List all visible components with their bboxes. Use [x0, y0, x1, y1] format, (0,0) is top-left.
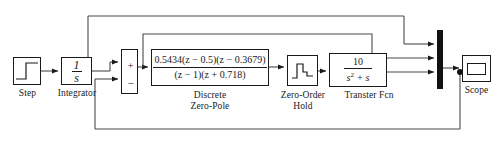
step-block[interactable]	[13, 57, 41, 85]
discrete-zero-pole-expression: 0.5434(z − 0.5)(z − 0.3679) (z − 1)(z + …	[153, 53, 268, 82]
sum-minus-sign: −	[122, 79, 139, 88]
transfer-fcn-block-label: Transter Fcn	[336, 90, 402, 101]
integrator-numerator: 1	[72, 59, 82, 71]
integrator-transfer-expression: 1 s	[72, 59, 82, 84]
zero-order-hold-block-label: Zero-Order Hold	[266, 90, 340, 112]
scope-block-label: Scope	[455, 85, 498, 96]
scope-screen-icon	[467, 63, 486, 75]
integrator-block[interactable]: 1 s	[61, 57, 92, 85]
mux-block[interactable]	[437, 30, 443, 89]
transfer-fcn-denominator: s2 + s	[344, 68, 371, 84]
block-diagram-canvas: Step 1 s Integrator + − 0.5434(z − 0.5)(…	[0, 0, 501, 145]
discrete-zero-pole-denominator: (z − 1)(z + 0.718)	[153, 67, 268, 82]
integrator-block-label: Integrator	[48, 88, 106, 99]
discrete-zero-pole-block[interactable]: 0.5434(z − 0.5)(z − 0.3679) (z − 1)(z + …	[151, 49, 269, 86]
sum-block[interactable]: + −	[121, 49, 138, 94]
step-signal-icon	[14, 58, 40, 84]
step-block-label: Step	[0, 88, 55, 99]
staircase-hold-icon	[290, 59, 315, 83]
zero-order-hold-block[interactable]	[287, 55, 318, 86]
transfer-fcn-numerator: 10	[344, 56, 371, 68]
scope-block[interactable]	[462, 55, 491, 82]
transfer-fcn-expression: 10 s2 + s	[344, 56, 371, 84]
sum-plus-sign: +	[122, 61, 139, 70]
discrete-zero-pole-numerator: 0.5434(z − 0.5)(z − 0.3679)	[153, 53, 268, 67]
transfer-fcn-block[interactable]: 10 s2 + s	[329, 53, 387, 87]
transfer-fcn-denominator-tail: + s	[354, 72, 370, 83]
integrator-denominator: s	[72, 71, 82, 84]
discrete-zero-pole-block-label: Discrete Zero-Pole	[160, 90, 260, 112]
